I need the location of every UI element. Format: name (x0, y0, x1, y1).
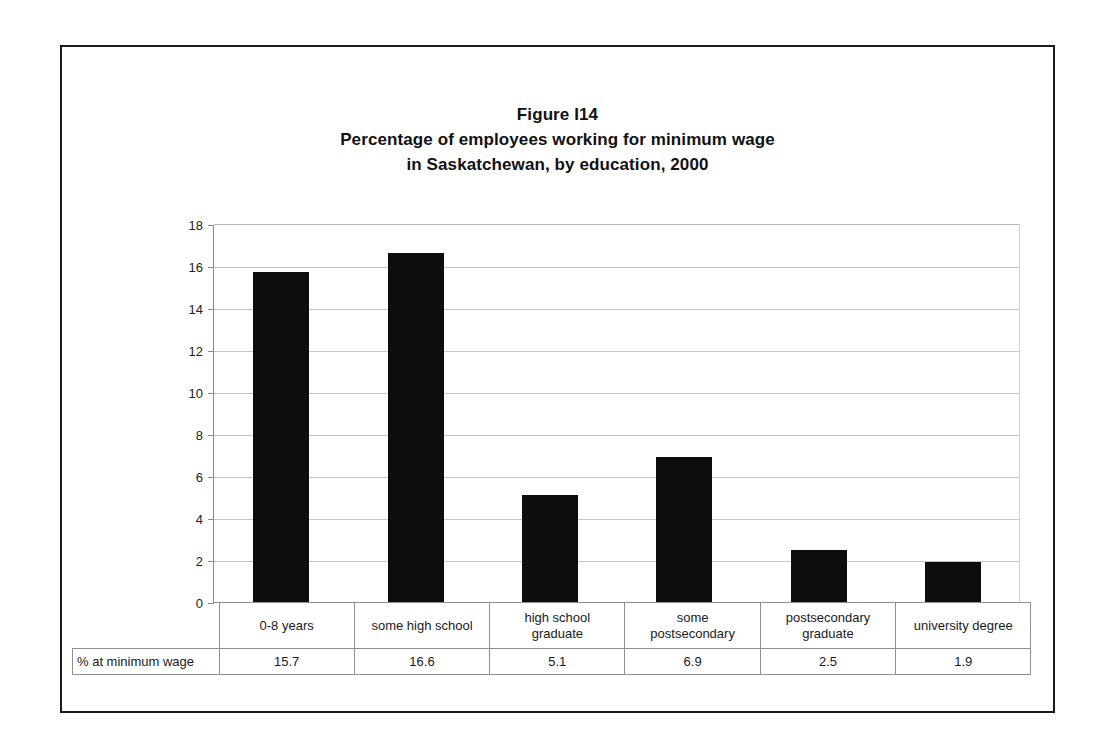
table-header-cell: postsecondarygraduate (760, 603, 895, 649)
y-tick-mark (208, 561, 214, 562)
gridline (214, 267, 1019, 268)
gridline (214, 561, 1019, 562)
bar (522, 495, 578, 602)
y-tick-mark (208, 225, 214, 226)
table-value-cell: 2.5 (760, 649, 895, 675)
y-axis-tick-label: 18 (189, 218, 203, 233)
figure-frame: Figure I14 Percentage of employees worki… (60, 45, 1055, 713)
plot-area: 181614121086420 (214, 224, 1020, 602)
table-header-cell: high schoolgraduate (490, 603, 625, 649)
category-label-line: graduate (761, 626, 895, 642)
table-row-categories: 0-8 yearssome high schoolhigh schoolgrad… (73, 603, 1031, 649)
gridline (214, 309, 1019, 310)
category-label-line: 0-8 years (220, 618, 354, 634)
gridline (214, 519, 1019, 520)
y-tick-mark (208, 435, 214, 436)
table-value-cell: 15.7 (219, 649, 354, 675)
y-tick-mark (208, 351, 214, 352)
chart-title: Figure I14 Percentage of employees worki… (62, 102, 1053, 177)
bar (253, 272, 309, 602)
data-table: 0-8 yearssome high schoolhigh schoolgrad… (72, 602, 1031, 675)
y-axis-line (213, 225, 214, 602)
y-axis-tick-label: 4 (196, 512, 203, 527)
y-tick-mark (208, 393, 214, 394)
gridline (214, 435, 1019, 436)
y-axis-tick-label: 10 (189, 386, 203, 401)
table-header-cell: some high school (354, 603, 489, 649)
y-tick-mark (208, 519, 214, 520)
plot-region: 181614121086420 (214, 224, 1020, 602)
y-axis-tick-label: 8 (196, 428, 203, 443)
table-header-cell: 0-8 years (219, 603, 354, 649)
category-label-line: high school (490, 610, 624, 626)
category-label-line: some high school (355, 618, 489, 634)
table-value-cell: 1.9 (896, 649, 1031, 675)
category-label-line: postsecondary (761, 610, 895, 626)
chart-title-line-2: Percentage of employees working for mini… (62, 127, 1053, 152)
y-axis-tick-label: 14 (189, 302, 203, 317)
y-tick-mark (208, 309, 214, 310)
gridline (214, 393, 1019, 394)
table-value-cell: 16.6 (354, 649, 489, 675)
y-axis-tick-label: 6 (196, 470, 203, 485)
table-value-cell: 6.9 (625, 649, 760, 675)
bar (925, 562, 981, 602)
bar (656, 457, 712, 602)
table-header-cell: university degree (896, 603, 1031, 649)
y-axis-tick-label: 12 (189, 344, 203, 359)
gridline (214, 477, 1019, 478)
y-tick-mark (208, 267, 214, 268)
table-corner-cell (73, 603, 220, 649)
chart-title-line-3: in Saskatchewan, by education, 2000 (62, 152, 1053, 177)
y-axis-tick-label: 2 (196, 554, 203, 569)
category-label-line: some (625, 610, 759, 626)
category-label-line: graduate (490, 626, 624, 642)
table-row-values: % at minimum wage 15.716.65.16.92.51.9 (73, 649, 1031, 675)
gridline (214, 351, 1019, 352)
bar (388, 253, 444, 602)
chart-title-line-1: Figure I14 (62, 102, 1053, 127)
series-label-cell: % at minimum wage (73, 649, 220, 675)
y-axis-tick-label: 16 (189, 260, 203, 275)
bar (791, 550, 847, 603)
table-value-cell: 5.1 (490, 649, 625, 675)
y-tick-mark (208, 477, 214, 478)
table-header-cell: somepostsecondary (625, 603, 760, 649)
category-label-line: university degree (896, 618, 1030, 634)
category-label-line: postsecondary (625, 626, 759, 642)
